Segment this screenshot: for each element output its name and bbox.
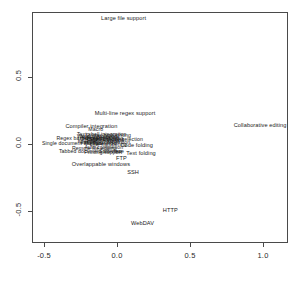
scatter-point-label: WebDAV: [131, 222, 154, 228]
x-axis-tick: [190, 243, 191, 247]
x-axis-tick-label: -0.5: [37, 251, 51, 260]
scatter-point-label: HTTP: [163, 208, 178, 214]
x-axis-tick-label: 0.5: [184, 251, 195, 260]
scatter-point-label: Large file support: [101, 16, 146, 22]
scatter-point-label: Overlappable windows: [72, 162, 130, 168]
x-axis-tick-label: 0.0: [111, 251, 122, 260]
y-axis-tick-label: -0.5: [10, 205, 26, 214]
y-axis-tick: [28, 144, 32, 145]
x-axis-tick: [117, 243, 118, 247]
y-axis-tick: [28, 77, 32, 78]
scatter-point-label: SSH: [127, 170, 139, 176]
scatter-point-label: Printing support: [84, 150, 122, 155]
x-axis-tick: [263, 243, 264, 247]
y-axis-tick-label: 0.0: [10, 138, 26, 147]
scatter-point-label: Code folding: [120, 144, 153, 150]
y-axis-tick-label: 0.5: [10, 71, 26, 80]
scatter-point-label: Collaborative editing: [234, 123, 287, 129]
scatter-plot-figure: -0.50.00.51.0 0.50.0-0.5 Large file supp…: [0, 0, 304, 282]
x-axis-tick-label: 1.0: [257, 251, 268, 260]
scatter-point-label: Multi-line regex support: [95, 111, 156, 117]
y-axis-tick: [28, 211, 32, 212]
scatter-point-label: Text folding: [126, 151, 156, 157]
x-axis-tick: [44, 243, 45, 247]
